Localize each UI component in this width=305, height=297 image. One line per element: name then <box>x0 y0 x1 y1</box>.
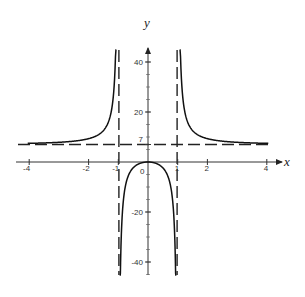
x-tick-label: 1 <box>175 164 180 173</box>
y-tick-label: -20 <box>131 208 143 217</box>
curve-right-branch <box>180 50 269 143</box>
x-tick-label: -4 <box>23 164 31 173</box>
x-axis-label: x <box>283 154 290 169</box>
x-tick-label: 2 <box>204 164 209 173</box>
y-tick-label: 20 <box>134 108 143 117</box>
y-tick-label: 40 <box>134 58 143 67</box>
x-tick-label: -1 <box>112 164 120 173</box>
y-axis-label: y <box>142 15 150 30</box>
y-tick-label: 7 <box>139 135 144 144</box>
function-graph: -4-2-1012440207-20-40 x y <box>0 0 305 297</box>
curve-left-branch <box>28 50 117 143</box>
y-tick-label: -40 <box>131 258 143 267</box>
x-tick-label: 0 <box>140 167 145 176</box>
x-tick-label: -2 <box>82 164 90 173</box>
x-tick-label: 4 <box>264 164 269 173</box>
